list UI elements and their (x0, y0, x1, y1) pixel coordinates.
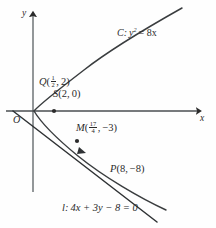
line-name-prefix: l: (62, 202, 68, 213)
curve-equation-label: C:y2= 8x (117, 27, 157, 38)
point-P-close-paren: ) (141, 163, 145, 174)
point-M-open-paren: ( (85, 122, 89, 133)
point-Q-x-numerator: 1 (51, 75, 56, 82)
point-M-name: M (76, 122, 85, 133)
point-M-x-numerator: 17 (89, 121, 98, 128)
point-P-comma: , (125, 163, 128, 174)
point-label-P: P(8,−8) (110, 164, 144, 175)
point-S-close-paren: ) (77, 88, 81, 99)
point-label-M: M(174,−3) (76, 121, 117, 136)
point-Q-name: Q (39, 76, 47, 87)
math-figure: y x O C:y2= 8x Q(12,2) S(2,0) M(174,−3) … (0, 0, 216, 228)
line-equation-label: l:4x + 3y − 8 = 0 (62, 203, 138, 214)
curve-name-prefix: C: (117, 27, 127, 38)
point-Q-open-paren: ( (47, 76, 51, 87)
point-Q-comma: , (56, 76, 59, 87)
y-axis-label: y (22, 9, 26, 19)
point-marker-S (52, 109, 56, 113)
figure-canvas (0, 0, 216, 228)
parabola-curve (34, 8, 182, 210)
point-M-x-denominator: 4 (89, 127, 98, 135)
point-M-comma: , (98, 122, 101, 133)
curve-equation-rhs: = 8x (139, 27, 157, 38)
point-M-close-paren: ) (114, 122, 118, 133)
point-M-y-value: −3 (102, 122, 113, 133)
line-equation-body: 4x + 3y − 8 = 0 (70, 202, 137, 213)
point-Q-close-paren: ) (66, 76, 70, 87)
point-S-comma: , (67, 88, 70, 99)
point-Q-x-fraction: 12 (51, 75, 56, 90)
point-label-S: S(2,0) (53, 89, 80, 100)
point-P-y-value: −8 (130, 163, 141, 174)
origin-label: O (13, 115, 20, 125)
point-marker-M (75, 139, 79, 143)
curve-equation-exponent: 2 (133, 26, 136, 33)
x-axis-label: x (200, 114, 204, 124)
line-direction-arrowhead (77, 147, 86, 154)
point-M-x-fraction: 174 (89, 121, 98, 136)
